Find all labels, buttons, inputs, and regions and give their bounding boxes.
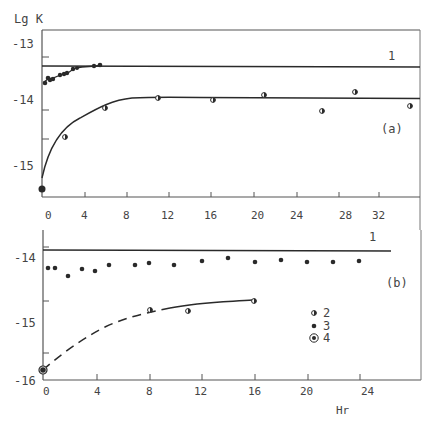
xtick-a-28: 28 — [339, 209, 352, 222]
legend: 2 3 4 — [310, 306, 330, 345]
dashed-fit-curve-b — [43, 308, 170, 370]
xtick-a-32: 32 — [372, 209, 385, 222]
legend-marker-circled-dot-icon — [310, 334, 318, 342]
xtick-a-16: 16 — [204, 209, 217, 222]
series-4-point-b — [39, 366, 47, 374]
panel-a-annotation: (a) — [381, 122, 403, 136]
ytick-a-13: -13 — [12, 37, 34, 51]
ytick-a-15: -15 — [12, 159, 34, 173]
series-3-points-b — [46, 256, 362, 279]
xtick-a-24: 24 — [290, 209, 304, 222]
xtick-b-24: 24 — [361, 385, 375, 398]
xtick-a-20: 20 — [251, 209, 264, 222]
x-axis-title: Hr — [336, 404, 350, 417]
legend-marker-half-icon — [312, 311, 317, 316]
fit-curve-a — [42, 97, 420, 178]
xtick-a-8: 8 — [123, 209, 130, 222]
solid-fit-curve-b — [170, 300, 253, 308]
ytick-b-16: -16 — [14, 374, 36, 388]
xtick-b-0: 0 — [43, 385, 50, 398]
xtick-a-4: 4 — [81, 209, 88, 222]
xtick-b-16: 16 — [248, 385, 261, 398]
xtick-b-12: 12 — [194, 385, 207, 398]
panel-a: -13 -14 -15 0 4 8 12 16 20 24 28 32 1 — [12, 30, 420, 230]
legend-marker-filled-icon — [312, 324, 317, 329]
panel-b-annotation: (b) — [386, 276, 408, 290]
ytick-b-14: -14 — [14, 251, 36, 265]
ytick-b-15: -15 — [14, 316, 36, 330]
y-axis-title: Lg K — [14, 12, 44, 26]
xtick-b-8: 8 — [146, 385, 153, 398]
xtick-a-12: 12 — [161, 209, 174, 222]
series-4-point-a — [39, 186, 46, 193]
line-1-label-b: 1 — [369, 230, 376, 244]
line-1-b — [43, 250, 391, 251]
line-1-label-a: 1 — [388, 49, 395, 63]
xtick-a-0: 0 — [45, 209, 52, 222]
legend-label-4: 4 — [323, 331, 330, 345]
xtick-b-4: 4 — [94, 385, 101, 398]
xtick-b-20: 20 — [300, 385, 313, 398]
legend-label-2: 2 — [323, 306, 330, 320]
panel-b: -14 -15 -16 0 4 8 12 16 20 24 Hr 1 — [14, 230, 421, 417]
figure: Lg K -13 -14 -15 0 4 8 — [0, 0, 435, 425]
ytick-a-14: -14 — [12, 93, 34, 107]
